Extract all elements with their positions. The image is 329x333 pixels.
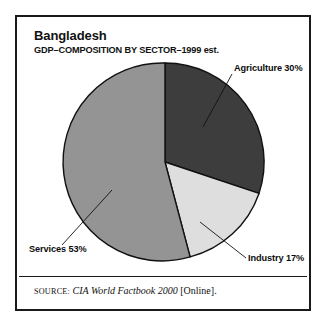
pie-label-industry: Industry 17% bbox=[248, 253, 304, 263]
pie-slices bbox=[63, 63, 264, 261]
pie-label-agriculture: Agriculture 30% bbox=[234, 63, 302, 73]
pie-chart bbox=[0, 0, 329, 333]
figure-panel: Bangladesh GDP–COMPOSITION BY SECTOR–199… bbox=[0, 0, 329, 333]
pie-label-services: Services 53% bbox=[29, 244, 87, 254]
